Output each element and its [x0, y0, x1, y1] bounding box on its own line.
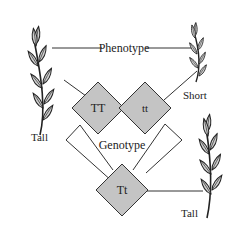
- genotype-phenotype-diagram: TT tt Tt Phenotype Genotype Short Tall T…: [0, 0, 250, 236]
- phenotype-label: Phenotype: [99, 41, 150, 55]
- short-label: Short: [183, 89, 207, 101]
- short-plant-icon: [187, 23, 210, 82]
- tall-plant-left-icon: [24, 26, 58, 135]
- genotype-bracket-right: [146, 124, 182, 173]
- tall-left-to-TT-line: [64, 80, 86, 96]
- genotype-Tt-label: Tt: [117, 183, 128, 197]
- genotype-tt-label: tt: [142, 102, 148, 114]
- tall-left-label: Tall: [31, 131, 48, 143]
- genotype-TT-label: TT: [91, 101, 106, 115]
- tall-right-label: Tall: [181, 207, 198, 219]
- genotype-bracket-left: [66, 125, 113, 182]
- genotype-label: Genotype: [99, 138, 146, 152]
- tall-plant-right-icon: [195, 114, 226, 218]
